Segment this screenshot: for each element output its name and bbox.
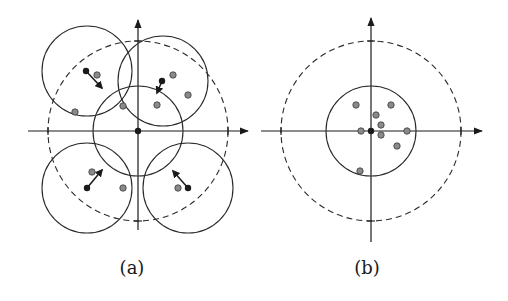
gray-point: [154, 102, 160, 108]
black-point: [368, 128, 374, 134]
gray-point: [353, 102, 359, 108]
panel-label-a: (a): [120, 257, 145, 278]
gray-point: [373, 112, 379, 118]
panel-a: (a): [28, 20, 248, 278]
black-point: [83, 68, 89, 74]
gray-point: [404, 128, 410, 134]
gray-point: [378, 132, 384, 138]
gray-point: [170, 72, 176, 78]
black-point: [185, 185, 191, 191]
gray-point: [120, 103, 126, 109]
gray-point: [72, 109, 78, 115]
gray-point: [358, 128, 364, 134]
panel-b: (b): [261, 18, 482, 278]
gray-point: [185, 92, 191, 98]
gray-point: [388, 102, 394, 108]
black-point: [84, 185, 90, 191]
black-point: [135, 128, 141, 134]
panel-label-b: (b): [354, 257, 380, 278]
gray-point: [378, 122, 384, 128]
black-points: [368, 128, 374, 134]
gray-point: [94, 72, 100, 78]
figure-diagram: (a) (b): [0, 0, 508, 301]
gray-point: [357, 168, 363, 174]
gray-point: [89, 169, 95, 175]
gray-point: [394, 143, 400, 149]
black-point: [159, 78, 165, 84]
gray-point: [175, 185, 181, 191]
gray-point: [120, 185, 126, 191]
